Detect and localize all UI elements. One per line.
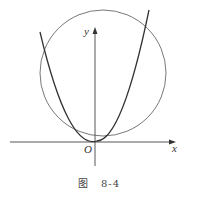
caption-prefix: 图 [78, 178, 89, 189]
figure-caption: 图8-4 [0, 175, 198, 190]
diagram-canvas [0, 0, 198, 201]
x-axis-label: x [172, 143, 177, 154]
circle-curve [40, 10, 166, 136]
y-axis-arrow-icon [93, 27, 98, 34]
y-axis-label: y [84, 26, 89, 37]
caption-number: 8-4 [101, 178, 120, 189]
origin-label: O [84, 144, 92, 155]
